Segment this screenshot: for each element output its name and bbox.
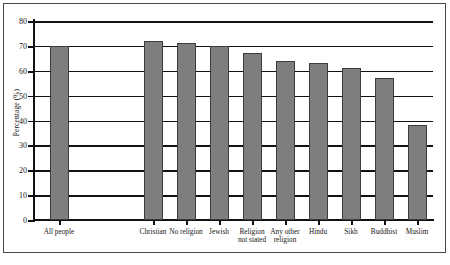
y-axis-tick-label: 50 (3, 91, 27, 100)
x-axis-tick-mark (186, 220, 188, 225)
bar (408, 125, 427, 220)
x-axis-tick-mark (153, 220, 155, 225)
bar (375, 78, 394, 220)
bar (177, 43, 196, 220)
source-caption (0, 257, 450, 265)
y-axis-tick-labels: 01020304050607080 (0, 0, 27, 265)
y-axis-tick-label: 80 (3, 17, 27, 26)
y-axis-tick-mark (28, 145, 33, 147)
y-axis-tick-mark (28, 46, 33, 48)
y-axis-tick-mark (28, 71, 33, 73)
bar (276, 61, 295, 220)
y-axis-tick-mark (28, 195, 33, 197)
gridline (33, 145, 433, 147)
x-axis-tick-mark (318, 220, 320, 225)
gridline (33, 195, 433, 197)
x-axis-category-label-line1: All people (44, 227, 75, 236)
x-axis-category-label: Muslim (387, 228, 447, 236)
gridline (33, 121, 433, 123)
x-axis-category-label-line2: religion (255, 236, 315, 244)
bar (210, 46, 229, 220)
bar-chart-figure: Percentage (%) 01020304050607080 All peo… (0, 0, 450, 265)
y-axis-tick-mark (28, 121, 33, 123)
y-axis-tick-label: 0 (3, 216, 27, 225)
gridline (33, 96, 433, 98)
gridline (33, 21, 433, 23)
bar (243, 53, 262, 220)
x-axis-category-label-line1: Muslim (406, 227, 429, 236)
x-axis-tick-mark (252, 220, 254, 225)
bar (50, 46, 69, 220)
x-axis-tick-mark (59, 220, 61, 225)
y-axis-tick-label: 20 (3, 166, 27, 175)
bar (144, 41, 163, 220)
x-axis-tick-mark (351, 220, 353, 225)
y-axis-tick-mark (28, 96, 33, 98)
x-axis-tick-mark (384, 220, 386, 225)
plot-area (33, 21, 433, 220)
gridline (33, 170, 433, 172)
x-axis-tick-mark (219, 220, 221, 225)
gridline (33, 46, 433, 48)
y-axis-tick-label: 60 (3, 66, 27, 75)
y-axis-tick-mark (28, 21, 33, 23)
y-axis-tick-mark (28, 220, 33, 222)
y-axis-tick-mark (28, 170, 33, 172)
y-axis-tick-label: 30 (3, 141, 27, 150)
x-axis-category-label: All people (29, 228, 89, 236)
bar (309, 63, 328, 220)
y-axis-tick-label: 40 (3, 116, 27, 125)
y-axis-tick-label: 10 (3, 191, 27, 200)
x-axis-tick-mark (417, 220, 419, 225)
y-axis-tick-label: 70 (3, 41, 27, 50)
bar (342, 68, 361, 220)
gridline (33, 71, 433, 73)
x-axis-tick-mark (285, 220, 287, 225)
